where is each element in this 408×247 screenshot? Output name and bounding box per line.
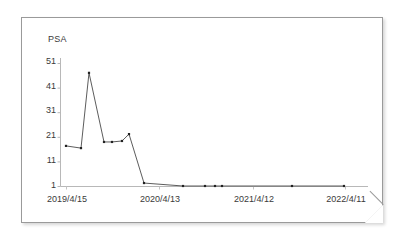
y-tick-label-51: 51 <box>38 56 56 66</box>
page-fold-corner <box>365 205 383 223</box>
x-tick-label-2022: 2022/4/11 <box>326 194 365 204</box>
x-tick-label-2020: 2020/4/13 <box>140 194 180 204</box>
chart-screenshot: PSA 51 41 31 21 11 1 2019/4/15 2020/4/13… <box>0 0 408 247</box>
x-tick-label-2019: 2019/4/15 <box>47 194 87 204</box>
y-tick-label-1: 1 <box>38 180 56 190</box>
y-tick-label-41: 41 <box>38 81 56 91</box>
chart-card <box>21 17 383 223</box>
x-tick-label-2021: 2021/4/12 <box>234 194 274 204</box>
y-axis-title: PSA <box>48 34 67 44</box>
page-fold-line <box>370 191 384 205</box>
y-tick-label-21: 21 <box>38 130 56 140</box>
y-tick-label-31: 31 <box>38 105 56 115</box>
y-tick-label-11: 11 <box>38 155 56 165</box>
